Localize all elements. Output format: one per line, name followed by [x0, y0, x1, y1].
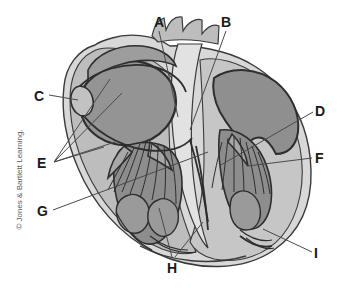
- heart-diagram-illustration: [0, 0, 345, 288]
- heart-anatomy-figure: ABCDEFGHI © Jones & Bartlett Learning.: [0, 0, 345, 288]
- label-h: H: [167, 261, 177, 275]
- label-c: C: [34, 89, 44, 103]
- label-d: D: [315, 104, 325, 118]
- label-g: G: [37, 204, 48, 218]
- label-b: B: [221, 15, 231, 29]
- label-a: A: [154, 15, 164, 29]
- label-e: E: [37, 156, 46, 170]
- heart-body: [63, 17, 311, 267]
- label-f: F: [315, 151, 324, 165]
- papillary-muscle-left-2: [148, 199, 179, 237]
- copyright-notice: © Jones & Bartlett Learning.: [15, 125, 24, 235]
- label-i: I: [314, 246, 318, 260]
- papillary-muscle-right: [230, 191, 260, 230]
